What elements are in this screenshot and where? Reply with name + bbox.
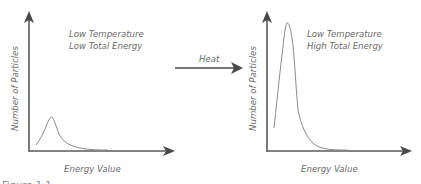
left-x-axis-label: Energy Value: [64, 164, 121, 174]
heat-transition: Heat: [175, 54, 243, 74]
figure-caption: Figure 1.1: [2, 180, 52, 184]
right-chart: Low Temperature High Total Energy Number…: [248, 11, 412, 174]
heat-label: Heat: [199, 54, 220, 64]
left-chart: Low Temperature Low Total Energy Number …: [10, 11, 175, 174]
left-distribution-curve: [36, 117, 108, 150]
right-chart-title-line1: Low Temperature: [307, 29, 382, 39]
left-y-axis-label: Number of Particles: [10, 46, 20, 131]
right-y-axis-label: Number of Particles: [248, 46, 258, 131]
left-chart-title-line1: Low Temperature: [69, 29, 144, 39]
energy-distribution-diagram: Low Temperature Low Total Energy Number …: [0, 0, 421, 184]
right-x-axis-label: Energy Value: [301, 164, 358, 174]
left-chart-title-line2: Low Total Energy: [69, 41, 143, 51]
right-chart-title-line2: High Total Energy: [307, 41, 384, 51]
